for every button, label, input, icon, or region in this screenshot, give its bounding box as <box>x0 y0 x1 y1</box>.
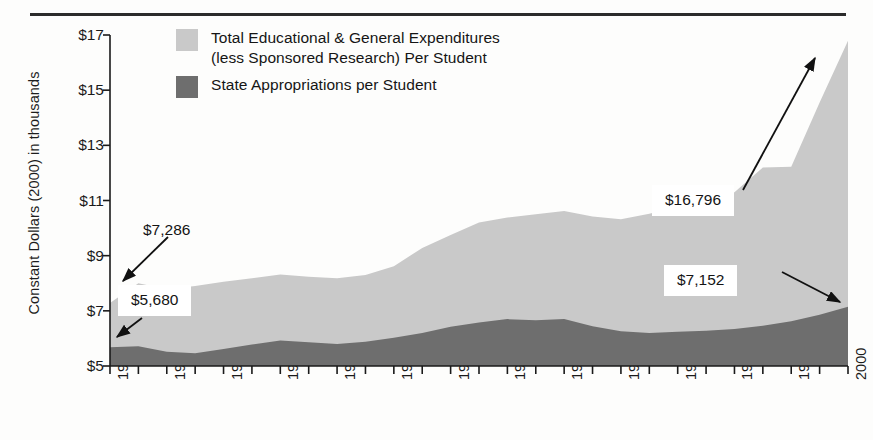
chart-legend: Total Educational & General Expenditures… <box>176 28 500 105</box>
legend-swatch-state-appropriations <box>176 76 198 98</box>
callout-7152: $7,152 <box>664 265 737 296</box>
callout-5680: $5,680 <box>118 285 191 316</box>
legend-label-state-appropriations: State Appropriations per Student <box>211 75 437 95</box>
chart-root: Constant Dollars (2000) in thousands $17… <box>0 0 873 440</box>
callout-16796: $16,796 <box>652 185 734 216</box>
legend-item-total-expenditures: Total Educational & General Expenditures… <box>176 28 500 68</box>
legend-item-state-appropriations: State Appropriations per Student <box>176 75 500 98</box>
x-tick-label: 2000 <box>854 348 869 380</box>
legend-swatch-total-expenditures <box>176 29 198 51</box>
callout-7286: $7,286 <box>143 222 190 238</box>
legend-label-total-expenditures: Total Educational & General Expenditures… <box>211 28 500 68</box>
